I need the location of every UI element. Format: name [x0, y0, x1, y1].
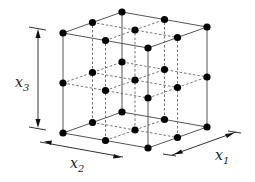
design-point: [174, 34, 181, 41]
design-point: [102, 87, 109, 94]
design-point: [203, 23, 210, 30]
x1-label: x1: [215, 147, 229, 166]
design-point: [118, 108, 125, 115]
design-point: [174, 134, 181, 141]
design-point: [102, 37, 109, 44]
design-point: [118, 8, 125, 15]
design-point: [161, 116, 168, 123]
design-point: [89, 69, 96, 76]
design-point: [144, 94, 151, 101]
design-point: [89, 19, 96, 26]
design-point: [203, 73, 210, 80]
x2-axis-arrow: [40, 141, 123, 159]
design-point: [203, 123, 210, 130]
design-point: [131, 126, 138, 133]
design-point: [59, 129, 66, 136]
design-point: [118, 58, 125, 65]
design-point: [144, 144, 151, 151]
cube-diagram: x3 x2 x1: [0, 0, 255, 182]
design-point: [131, 76, 138, 83]
x3-axis-arrow: [29, 27, 46, 130]
x2-label: x2: [70, 155, 84, 174]
design-points: [59, 8, 210, 151]
x3-label: x3: [15, 74, 29, 93]
design-point: [174, 84, 181, 91]
design-point: [131, 26, 138, 33]
x1-axis-arrow: [163, 131, 241, 156]
design-point: [144, 44, 151, 51]
design-point: [59, 79, 66, 86]
design-point: [59, 29, 66, 36]
design-point: [102, 137, 109, 144]
design-point: [161, 66, 168, 73]
design-point: [89, 119, 96, 126]
design-point: [161, 16, 168, 23]
